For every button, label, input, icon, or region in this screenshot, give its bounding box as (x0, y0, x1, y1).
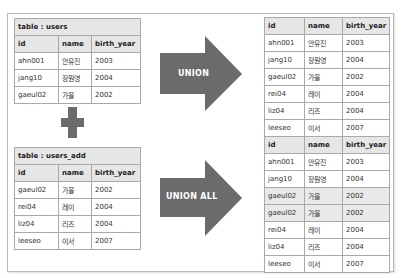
table-row: jang10 장원영 2004 (265, 52, 390, 69)
column-header-id: id (265, 137, 305, 154)
table-result-union: id name birth_year ahn001 안유진 2003 jang1… (264, 17, 390, 137)
table-title: table : users (15, 19, 141, 36)
column-header-id: id (265, 18, 305, 35)
cell-id: ahn001 (15, 53, 59, 70)
table-row: ahn001 안유진 2003 (265, 154, 390, 171)
cell-name: 장원영 (59, 70, 92, 87)
cell-name: 가을 (59, 182, 92, 199)
column-header-name: name (305, 137, 343, 154)
table-row: gaeul02 가을 2002 (265, 69, 390, 86)
table-row: rei04 레이 2004 (265, 86, 390, 103)
cell-name: 가을 (59, 87, 92, 104)
cell-birth-year: 2004 (343, 239, 390, 256)
column-header-id: id (15, 165, 59, 182)
cell-birth-year: 2004 (343, 86, 390, 103)
table-row: ahn001 안유진 2003 (15, 53, 141, 70)
union-all-label: UNION ALL (166, 192, 218, 201)
table-row: leeseo 이서 2007 (265, 256, 390, 273)
cell-birth-year: 2003 (343, 154, 390, 171)
cell-name: 안유진 (305, 35, 343, 52)
cell-id: gaeul02 (15, 182, 59, 199)
cell-name: 안유진 (305, 154, 343, 171)
cell-birth-year: 2002 (343, 69, 390, 86)
cell-birth-year: 2002 (343, 188, 390, 205)
cell-birth-year: 2004 (343, 222, 390, 239)
cell-name: 장원영 (305, 171, 343, 188)
table-row: rei04 레이 2004 (15, 199, 141, 216)
table-row: jang10 장원영 2004 (265, 171, 390, 188)
cell-name: 리즈 (305, 239, 343, 256)
cell-birth-year: 2003 (92, 53, 141, 70)
cell-id: ahn001 (265, 154, 305, 171)
cell-id: liz04 (265, 239, 305, 256)
cell-birth-year: 2004 (343, 52, 390, 69)
table-row: jang10 장원영 2004 (15, 70, 141, 87)
table-result-union-all: id name birth_year ahn001 안유진 2003 jang1… (264, 136, 390, 273)
table-users: table : users id name birth_year ahn001 … (14, 18, 141, 104)
column-header-id: id (15, 36, 59, 53)
cell-name: 레이 (59, 199, 92, 216)
cell-birth-year: 2004 (343, 171, 390, 188)
cell-name: 레이 (305, 222, 343, 239)
cell-id: rei04 (265, 86, 305, 103)
table-row: liz04 리즈 2004 (265, 103, 390, 120)
cell-name: 리즈 (59, 216, 92, 233)
cell-birth-year: 2004 (343, 103, 390, 120)
cell-name: 장원영 (305, 52, 343, 69)
cell-id: rei04 (15, 199, 59, 216)
cell-name: 이서 (305, 256, 343, 273)
cell-id: gaeul02 (265, 69, 305, 86)
cell-id: gaeul02 (265, 205, 305, 222)
table-row: ahn001 안유진 2003 (265, 35, 390, 52)
cell-id: ahn001 (265, 35, 305, 52)
column-header-name: name (59, 165, 92, 182)
cell-birth-year: 2003 (343, 35, 390, 52)
cell-birth-year: 2007 (343, 120, 390, 137)
cell-name: 레이 (305, 86, 343, 103)
column-header-birth-year: birth_year (92, 36, 141, 53)
cell-birth-year: 2002 (92, 87, 141, 104)
table-row: rei04 레이 2004 (265, 222, 390, 239)
table-users-add: table : users_add id name birth_year gae… (14, 147, 141, 250)
table-row: liz04 리즈 2004 (265, 239, 390, 256)
cell-name: 리즈 (305, 103, 343, 120)
table-row: liz04 리즈 2004 (15, 216, 141, 233)
cell-id: liz04 (265, 103, 305, 120)
cell-id: leeseo (265, 120, 305, 137)
table-row: gaeul02 가을 2002 (15, 87, 141, 104)
column-header-birth-year: birth_year (343, 18, 390, 35)
cell-birth-year: 2007 (92, 233, 141, 250)
column-header-birth-year: birth_year (343, 137, 390, 154)
cell-id: jang10 (265, 171, 305, 188)
cell-birth-year: 2002 (92, 182, 141, 199)
table-row-duplicate: gaeul02 가을 2002 (265, 188, 390, 205)
column-header-name: name (59, 36, 92, 53)
table-title: table : users_add (15, 148, 141, 165)
table-row: gaeul02 가을 2002 (15, 182, 141, 199)
table-row-duplicate: gaeul02 가을 2002 (265, 205, 390, 222)
cell-name: 이서 (59, 233, 92, 250)
cell-name: 가을 (305, 188, 343, 205)
union-label: UNION (178, 69, 209, 78)
cell-name: 가을 (305, 205, 343, 222)
cell-name: 안유진 (59, 53, 92, 70)
cell-birth-year: 2004 (92, 216, 141, 233)
cell-name: 가을 (305, 69, 343, 86)
column-header-birth-year: birth_year (92, 165, 141, 182)
table-row: leeseo 이서 2007 (265, 120, 390, 137)
cell-id: jang10 (15, 70, 59, 87)
cell-birth-year: 2007 (343, 256, 390, 273)
cell-birth-year: 2004 (92, 70, 141, 87)
cell-id: rei04 (265, 222, 305, 239)
cell-birth-year: 2004 (92, 199, 141, 216)
cell-birth-year: 2002 (343, 205, 390, 222)
cell-id: leeseo (15, 233, 59, 250)
cell-id: liz04 (15, 216, 59, 233)
cell-id: jang10 (265, 52, 305, 69)
cell-id: gaeul02 (15, 87, 59, 104)
plus-icon (61, 107, 84, 138)
cell-id: gaeul02 (265, 188, 305, 205)
table-row: leeseo 이서 2007 (15, 233, 141, 250)
column-header-name: name (305, 18, 343, 35)
cell-name: 이서 (305, 120, 343, 137)
